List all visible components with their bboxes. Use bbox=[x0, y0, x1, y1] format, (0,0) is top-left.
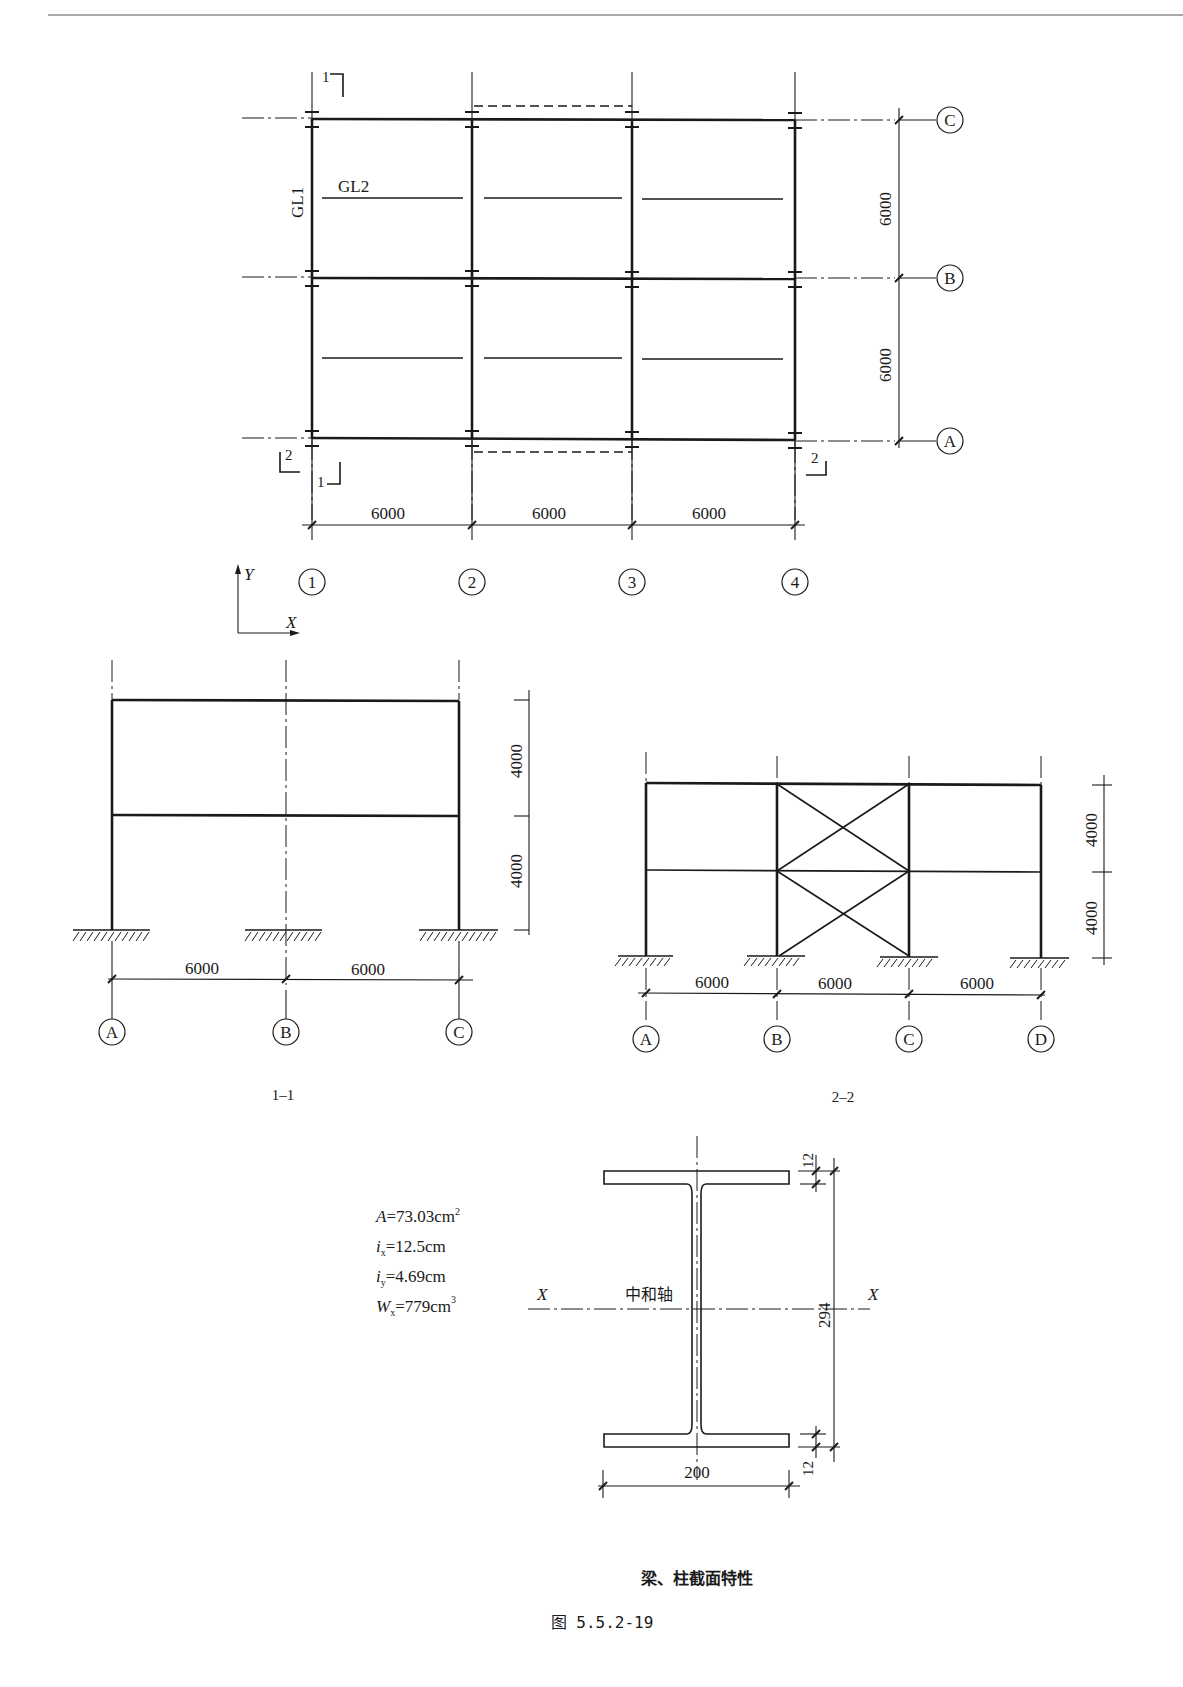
svg-text:B: B bbox=[944, 269, 955, 288]
axis-bubble-4: 4 bbox=[782, 569, 808, 595]
top-flange-dimension: 12 bbox=[800, 1153, 816, 1168]
section22-height-lower: 4000 bbox=[1082, 901, 1101, 935]
axis-bubble-a: A bbox=[633, 1026, 659, 1052]
x-axis-label-right: X bbox=[867, 1285, 879, 1304]
svg-text:1: 1 bbox=[308, 573, 317, 592]
axis-bubble-c: C bbox=[937, 107, 963, 133]
svg-text:3: 3 bbox=[628, 573, 637, 592]
prop-ix: ix=12.5cm bbox=[376, 1237, 446, 1258]
section11-span-b-c: 6000 bbox=[351, 960, 385, 979]
section-mark-1-top: 1 bbox=[322, 69, 343, 97]
section11-title: 1–1 bbox=[272, 1087, 295, 1103]
fixed-support-icon bbox=[877, 957, 938, 967]
plan-span-3-4: 6000 bbox=[692, 504, 726, 523]
axis-bubble-3: 3 bbox=[619, 569, 645, 595]
svg-text:A: A bbox=[944, 432, 957, 451]
svg-text:A: A bbox=[640, 1030, 653, 1049]
plan-span-1-2: 6000 bbox=[371, 504, 405, 523]
plan-span-2-3: 6000 bbox=[532, 504, 566, 523]
prop-wx: Wx=779cm3 bbox=[376, 1294, 456, 1318]
svg-text:2: 2 bbox=[811, 450, 819, 466]
section22-title: 2–2 bbox=[832, 1089, 855, 1105]
section22-span-b-c: 6000 bbox=[818, 974, 852, 993]
axis-bubble-c: C bbox=[896, 1026, 922, 1052]
section-mark-2-right: 2 bbox=[806, 450, 826, 475]
section-caption: 梁、柱截面特性 bbox=[640, 1569, 753, 1588]
fixed-support-icon bbox=[615, 956, 673, 966]
fixed-support-icon bbox=[1010, 958, 1069, 968]
section22-span-a-b: 6000 bbox=[695, 973, 729, 992]
floor-plan: GL2 GL1 1 1 2 2 6000 6000 6000 bbox=[235, 69, 963, 636]
section22-span-c-d: 6000 bbox=[960, 974, 994, 993]
fixed-support-icon bbox=[73, 930, 150, 941]
svg-text:C: C bbox=[903, 1030, 914, 1049]
section-1-1: 6000 6000 4000 4000 A B C 1–1 bbox=[73, 660, 529, 1103]
axis-bubble-2: 2 bbox=[459, 569, 485, 595]
section-2-2: 6000 6000 6000 4000 4000 A B C D 2–2 bbox=[615, 752, 1112, 1105]
svg-text:D: D bbox=[1035, 1030, 1047, 1049]
svg-text:B: B bbox=[280, 1023, 291, 1042]
bottom-flange-dimension: 12 bbox=[800, 1461, 816, 1476]
svg-text:X: X bbox=[285, 613, 297, 632]
figure-caption: 图 5.5.2-19 bbox=[551, 1613, 654, 1632]
axis-bubble-a: A bbox=[937, 428, 963, 454]
axis-bubble-c: C bbox=[446, 1019, 472, 1045]
section-properties: A=73.03cm2 ix=12.5cm iy=4.69cm Wx=779cm3 bbox=[375, 1206, 460, 1318]
svg-text:1: 1 bbox=[322, 69, 330, 85]
section11-height-upper: 4000 bbox=[507, 744, 526, 778]
fixed-support-icon bbox=[245, 930, 322, 941]
axis-bubble-b: B bbox=[937, 265, 963, 291]
neutral-axis-label: 中和轴 bbox=[625, 1285, 673, 1304]
plan-span-c-b: 6000 bbox=[876, 192, 895, 226]
svg-text:A: A bbox=[106, 1023, 119, 1042]
coordinate-axes-icon: Y X bbox=[235, 564, 300, 636]
axis-bubble-b: B bbox=[764, 1026, 790, 1052]
svg-text:C: C bbox=[453, 1023, 464, 1042]
svg-text:C: C bbox=[944, 111, 955, 130]
column-label-gl1: GL1 bbox=[288, 187, 307, 218]
section11-span-a-b: 6000 bbox=[185, 959, 219, 978]
axis-bubble-b: B bbox=[273, 1019, 299, 1045]
fixed-support-icon bbox=[419, 930, 498, 941]
svg-text:4: 4 bbox=[791, 573, 800, 592]
prop-area: A=73.03cm2 bbox=[375, 1206, 460, 1226]
svg-text:B: B bbox=[771, 1030, 782, 1049]
prop-iy: iy=4.69cm bbox=[376, 1267, 446, 1288]
svg-text:2: 2 bbox=[285, 447, 293, 463]
axis-bubble-d: D bbox=[1028, 1026, 1054, 1052]
depth-dimension: 294 bbox=[815, 1302, 834, 1328]
fixed-support-icon bbox=[744, 956, 805, 966]
plan-span-b-a: 6000 bbox=[876, 348, 895, 382]
axis-bubble-1: 1 bbox=[299, 569, 325, 595]
section11-height-lower: 4000 bbox=[507, 854, 526, 888]
i-beam-section: A=73.03cm2 ix=12.5cm iy=4.69cm Wx=779cm3… bbox=[375, 1136, 879, 1498]
drawing-canvas: GL2 GL1 1 1 2 2 6000 6000 6000 bbox=[0, 0, 1183, 1687]
x-axis-label-left: X bbox=[536, 1285, 548, 1304]
svg-text:1: 1 bbox=[317, 474, 325, 490]
beam-label-gl2: GL2 bbox=[338, 177, 369, 196]
svg-text:Y: Y bbox=[244, 565, 255, 584]
svg-text:2: 2 bbox=[468, 573, 477, 592]
section-mark-1-bottom: 1 bbox=[317, 462, 340, 490]
section22-height-upper: 4000 bbox=[1082, 813, 1101, 847]
width-dimension: 200 bbox=[684, 1463, 710, 1482]
axis-bubble-a: A bbox=[99, 1019, 125, 1045]
section-mark-2-left: 2 bbox=[280, 447, 300, 472]
